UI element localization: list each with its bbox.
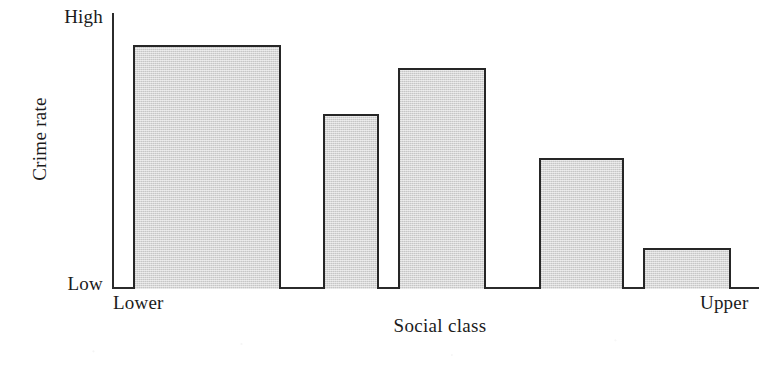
x-axis-title: Social class bbox=[355, 315, 525, 337]
y-axis-line bbox=[112, 13, 114, 288]
y-axis-tick-low-label: Low bbox=[68, 273, 103, 295]
y-axis-title: Crime rate bbox=[29, 69, 51, 209]
y-axis-tick-high-label: High bbox=[64, 6, 103, 28]
y-axis-tick-low: Low bbox=[0, 287, 103, 288]
bar-2 bbox=[323, 114, 379, 289]
bar-5 bbox=[643, 248, 731, 289]
bar-4 bbox=[539, 158, 624, 289]
bar-chart-figure: High Low Crime rate Lower Upper Social c… bbox=[0, 0, 779, 366]
bar-1 bbox=[133, 45, 281, 289]
x-axis-category-upper: Upper bbox=[700, 292, 748, 314]
x-axis-category-lower: Lower bbox=[113, 292, 164, 314]
bar-3 bbox=[398, 68, 486, 289]
y-axis-tick-high: High bbox=[0, 17, 103, 18]
